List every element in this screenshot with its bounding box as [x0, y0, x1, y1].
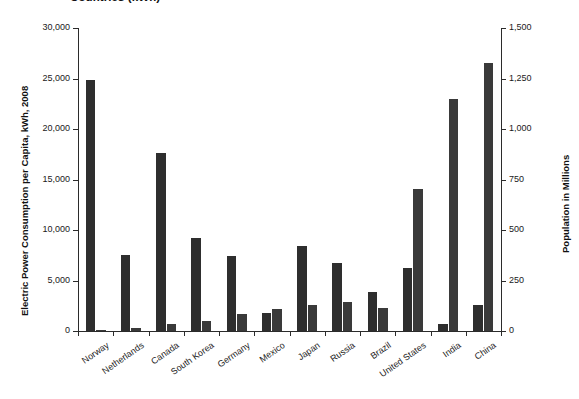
bar-kwh-canada — [156, 153, 166, 331]
x-label-india: India — [441, 340, 463, 359]
x-tick-mark — [290, 331, 291, 336]
left-tick-label: 5,000 — [0, 275, 70, 285]
left-tick-label: 0 — [0, 325, 70, 335]
chart-container: Countries (kWh) Electric Power Consumpti… — [0, 0, 579, 399]
right-tick-mark — [501, 230, 506, 231]
bar-kwh-netherlands — [121, 255, 131, 331]
left-tick-label: 25,000 — [0, 73, 70, 83]
x-label-mexico: Mexico — [258, 340, 287, 365]
right-tick-label: 1,250 — [509, 73, 559, 83]
x-tick-mark — [466, 331, 467, 336]
x-tick-mark — [254, 331, 255, 336]
left-tick-label: 15,000 — [0, 174, 70, 184]
x-tick-mark — [78, 331, 79, 336]
bar-kwh-brazil — [368, 292, 378, 331]
right-tick-mark — [501, 28, 506, 29]
right-tick-label: 0 — [509, 325, 559, 335]
chart-title: Countries (kWh) — [70, 0, 370, 3]
bar-population-canada — [167, 324, 177, 331]
x-tick-mark — [360, 331, 361, 336]
bar-population-india — [449, 99, 459, 331]
right-tick-label: 500 — [509, 224, 559, 234]
x-tick-mark — [149, 331, 150, 336]
bar-population-united-states — [413, 189, 423, 331]
bar-population-japan — [308, 305, 318, 331]
bar-population-norway — [96, 330, 106, 331]
bar-kwh-china — [473, 305, 483, 331]
bar-population-brazil — [378, 308, 388, 331]
bar-population-mexico — [272, 309, 282, 331]
x-tick-mark — [113, 331, 114, 336]
right-tick-mark — [501, 129, 506, 130]
x-label-germany: Germany — [215, 340, 251, 369]
x-tick-mark — [219, 331, 220, 336]
x-tick-mark — [501, 331, 502, 336]
bars-layer — [78, 28, 501, 331]
bar-kwh-united-states — [403, 268, 413, 331]
bar-kwh-germany — [227, 256, 237, 331]
x-label-russia: Russia — [329, 340, 357, 364]
right-axis-title: Population in Millions — [560, 155, 571, 253]
x-tick-mark — [395, 331, 396, 336]
bar-kwh-south-korea — [191, 238, 201, 331]
left-tick-label: 10,000 — [0, 224, 70, 234]
bar-population-china — [484, 63, 494, 331]
x-tick-mark — [184, 331, 185, 336]
x-label-china: China — [473, 340, 498, 362]
bar-population-netherlands — [131, 328, 141, 331]
right-tick-label: 1,000 — [509, 123, 559, 133]
x-label-brazil: Brazil — [368, 340, 392, 361]
right-tick-label: 1,500 — [509, 22, 559, 32]
x-tick-mark — [325, 331, 326, 336]
right-tick-label: 750 — [509, 174, 559, 184]
bar-kwh-mexico — [262, 313, 272, 331]
right-tick-mark — [501, 180, 506, 181]
bar-population-south-korea — [202, 321, 212, 331]
bar-population-russia — [343, 302, 353, 331]
bar-population-germany — [237, 314, 247, 331]
right-tick-mark — [501, 79, 506, 80]
left-tick-label: 30,000 — [0, 22, 70, 32]
left-tick-label: 20,000 — [0, 123, 70, 133]
x-tick-mark — [431, 331, 432, 336]
bar-kwh-japan — [297, 246, 307, 331]
x-label-norway: Norway — [80, 340, 111, 366]
bar-kwh-norway — [86, 80, 96, 331]
bar-kwh-russia — [332, 263, 342, 331]
right-tick-label: 250 — [509, 275, 559, 285]
right-tick-mark — [501, 281, 506, 282]
bar-kwh-india — [438, 324, 448, 331]
x-label-japan: Japan — [296, 340, 322, 362]
